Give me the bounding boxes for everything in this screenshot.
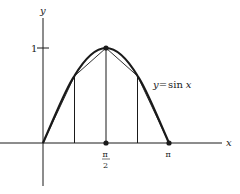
point-pi-axis [166, 140, 171, 145]
point-half-pi-axis [103, 140, 108, 145]
point-peak [103, 45, 108, 50]
x-tick-label-half-pi-den: 2 [103, 161, 108, 170]
curve-label-eq: = [159, 79, 167, 90]
sine-chord-diagram: y 1 x π 2 π y=sinx [0, 0, 240, 194]
curve-label-fn: sin [168, 79, 183, 90]
y-axis-label: y [39, 5, 46, 16]
x-tick-label-half-pi-num: π [103, 150, 108, 159]
curve-label: y=sinx [152, 79, 192, 90]
x-tick-label-pi: π [166, 150, 171, 159]
y-tick-label-1: 1 [31, 43, 37, 54]
x-axis-label: x [226, 137, 232, 148]
curve-label-arg: x [186, 79, 192, 90]
